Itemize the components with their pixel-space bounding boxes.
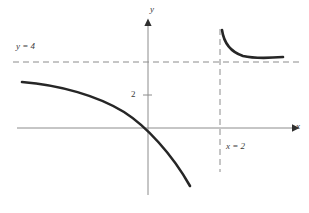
horizontal-asymptote-label: y = 4 (16, 42, 35, 51)
vertical-asymptote-label: x = 2 (226, 142, 245, 151)
y-axis-tick-label-2: 2 (131, 90, 136, 99)
graph-figure: y x y = 4 x = 2 2 (0, 0, 309, 213)
x-axis-label: x (296, 122, 300, 131)
y-axis-label: y (150, 5, 154, 14)
y-axis-arrowhead (144, 19, 151, 27)
curve-left-branch (22, 82, 190, 186)
plot-canvas (0, 0, 309, 213)
curve-right-branch (222, 30, 283, 58)
